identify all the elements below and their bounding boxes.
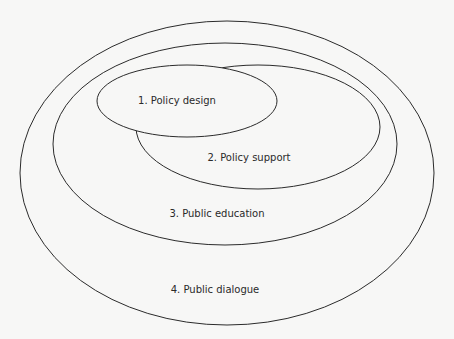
label-public-dialogue: 4. Public dialogue — [171, 284, 259, 295]
label-policy-support: 2. Policy support — [207, 152, 290, 163]
label-policy-design: 1. Policy design — [138, 95, 216, 106]
label-public-education: 3. Public education — [169, 208, 264, 219]
